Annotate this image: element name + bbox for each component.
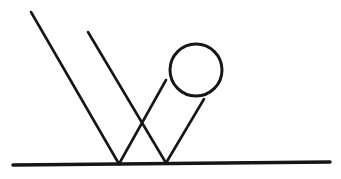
canvas-background — [0, 0, 341, 179]
figure-svg — [0, 0, 341, 179]
drawing-canvas — [0, 0, 341, 179]
